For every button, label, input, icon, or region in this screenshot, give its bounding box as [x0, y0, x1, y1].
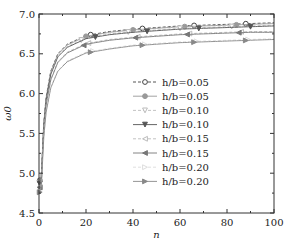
- data-marker: [143, 108, 148, 113]
- y-tick-label: 6.5: [19, 48, 35, 59]
- legend-entry: h/b=0.20: [133, 176, 209, 187]
- data-marker: [236, 30, 241, 35]
- series-line: [40, 39, 274, 192]
- series-line: [40, 24, 274, 182]
- legend-entry: h/b=0.10: [133, 105, 209, 116]
- series-1: [37, 21, 274, 182]
- data-marker: [243, 21, 248, 26]
- series-line: [40, 39, 274, 192]
- data-marker: [178, 26, 183, 31]
- legend-entry: h/b=0.05: [133, 91, 209, 102]
- chart: 0204060801004.55.05.56.06.57.0nω0 h/b=0.…: [0, 0, 287, 243]
- legend-label: h/b=0.15: [162, 148, 209, 159]
- y-tick-label: 6.0: [19, 88, 35, 99]
- legend-entry: h/b=0.10: [133, 119, 209, 130]
- data-marker: [143, 94, 148, 99]
- legend-label: h/b=0.05: [162, 91, 209, 102]
- series-line: [40, 23, 274, 181]
- data-marker: [143, 136, 148, 141]
- data-marker: [81, 43, 86, 48]
- x-tick-label: 20: [80, 217, 93, 228]
- series-8: [37, 38, 274, 195]
- series-line: [40, 25, 274, 183]
- series-5: [37, 29, 274, 189]
- data-marker: [93, 35, 98, 40]
- x-tick-label: 80: [221, 217, 234, 228]
- legend-label: h/b=0.20: [162, 176, 209, 187]
- legend-entry: h/b=0.15: [133, 133, 209, 144]
- series-line: [40, 32, 274, 187]
- legend: h/b=0.05h/b=0.05h/b=0.10h/b=0.10h/b=0.15…: [133, 77, 209, 187]
- data-marker: [143, 165, 148, 170]
- data-marker: [185, 32, 190, 37]
- y-tick-label: 7.0: [19, 9, 35, 20]
- data-marker: [143, 80, 148, 85]
- series-layer: [37, 21, 274, 194]
- y-axis-label: ω0: [2, 106, 13, 121]
- series-line: [40, 32, 274, 187]
- y-tick-label: 5.5: [19, 128, 35, 139]
- data-marker: [248, 24, 253, 29]
- data-marker: [133, 35, 138, 40]
- x-axis-label: n: [153, 229, 159, 240]
- data-marker: [143, 122, 148, 127]
- legend-entry: h/b=0.05: [133, 77, 209, 88]
- legend-label: h/b=0.15: [162, 133, 209, 144]
- legend-label: h/b=0.05: [162, 77, 209, 88]
- series-2: [37, 22, 274, 183]
- x-tick-label: 100: [264, 217, 283, 228]
- y-tick-label: 4.5: [19, 208, 35, 219]
- data-marker: [145, 29, 150, 34]
- legend-label: h/b=0.20: [162, 162, 209, 173]
- data-marker: [196, 26, 201, 31]
- data-marker: [86, 41, 91, 46]
- legend-entry: h/b=0.20: [133, 162, 209, 173]
- x-tick-label: 40: [127, 217, 140, 228]
- x-tick-label: 0: [36, 217, 42, 228]
- data-marker: [126, 30, 131, 35]
- series-3: [37, 24, 274, 185]
- x-tick-label: 60: [174, 217, 187, 228]
- series-7: [37, 37, 274, 194]
- data-marker: [229, 24, 234, 29]
- data-marker: [88, 32, 93, 37]
- data-marker: [143, 151, 148, 156]
- legend-label: h/b=0.10: [162, 119, 209, 130]
- data-marker: [192, 23, 197, 28]
- y-tick-label: 5.0: [19, 168, 35, 179]
- legend-label: h/b=0.10: [162, 105, 209, 116]
- data-marker: [143, 179, 148, 184]
- series-4: [37, 24, 274, 186]
- legend-entry: h/b=0.15: [133, 148, 209, 159]
